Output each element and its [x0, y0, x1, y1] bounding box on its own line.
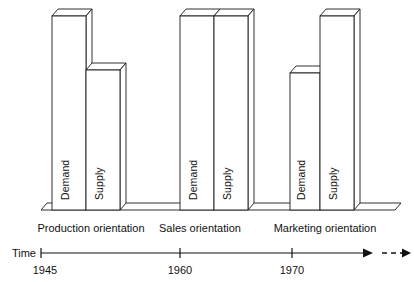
- bar-label-demand: Demand: [295, 160, 307, 200]
- group-label-production-orientation: Production orientation: [37, 222, 144, 234]
- bar-label-demand: Demand: [59, 160, 71, 200]
- group-label-marketing-orientation: Marketing orientation: [274, 222, 377, 234]
- bar-top-face: [86, 63, 126, 70]
- bar-sales-supply[interactable]: Supply: [214, 9, 254, 210]
- tick-label-1970: 1970: [280, 264, 304, 276]
- bar-label-supply: Supply: [221, 167, 233, 200]
- bar-label-supply: Supply: [93, 167, 105, 200]
- bar-top-face: [180, 9, 220, 16]
- tick-label-1945: 1945: [33, 264, 57, 276]
- bar-group-marketing-orientation: Demand Supply Marketing orientation: [274, 9, 377, 234]
- bar-label-demand: Demand: [187, 160, 199, 200]
- time-axis: Time 1945 1960 1970: [12, 247, 411, 276]
- time-axis-label: Time: [12, 247, 36, 259]
- group-label-sales-orientation: Sales orientation: [159, 222, 241, 234]
- bar-label-supply: Supply: [327, 167, 339, 200]
- bar-top-face: [214, 9, 254, 16]
- time-axis-dashed-arrowhead: [402, 249, 411, 258]
- bar-group-sales-orientation: Demand Supply Sales orientation: [159, 9, 254, 234]
- bar-top-face: [320, 9, 360, 16]
- bar-marketing-supply[interactable]: Supply: [320, 9, 360, 210]
- chart-canvas: Demand Supply Production orientation Dem…: [0, 0, 414, 282]
- bar-side-face: [354, 9, 360, 210]
- demand-supply-orientation-chart: Demand Supply Production orientation Dem…: [0, 0, 414, 282]
- bar-side-face: [248, 9, 254, 210]
- time-axis-arrowhead: [363, 249, 373, 258]
- bar-production-supply[interactable]: Supply: [86, 63, 126, 210]
- bar-top-face: [52, 9, 92, 16]
- bar-group-production-orientation: Demand Supply Production orientation: [37, 9, 144, 234]
- bar-side-face: [120, 63, 126, 210]
- tick-label-1960: 1960: [168, 264, 192, 276]
